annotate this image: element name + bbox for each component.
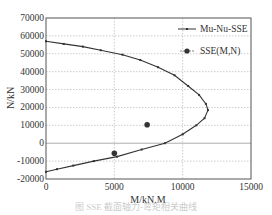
curve-marker: [82, 46, 84, 48]
curve-marker: [122, 54, 124, 56]
curve-marker: [157, 66, 159, 68]
curve-marker: [45, 171, 47, 173]
y-tick-label: 70000: [20, 13, 44, 23]
y-tick-label: 10000: [20, 120, 44, 130]
curve-marker: [116, 156, 118, 158]
curve-marker: [173, 74, 175, 76]
curve-marker: [182, 133, 184, 135]
legend: Mu-Nu-SSE SSE(M,N): [178, 24, 248, 57]
data-series: [45, 40, 209, 173]
y-tick-label: 0: [39, 138, 44, 148]
mu-nu-sse-curve: [46, 41, 208, 172]
y-axis-ticks: -20000-100000100002000030000400005000060…: [17, 13, 44, 184]
curve-marker: [100, 49, 102, 51]
y-axis-label: N/kN: [5, 87, 16, 109]
x-tick-label: 10000: [171, 182, 195, 192]
curve-marker: [204, 117, 206, 119]
y-tick-label: 20000: [20, 102, 44, 112]
curve-marker: [207, 109, 209, 111]
y-tick-label: -10000: [17, 156, 44, 166]
y-tick-label: 40000: [20, 67, 44, 77]
curve-marker: [187, 85, 189, 87]
curve-marker: [45, 40, 47, 42]
curve-marker: [139, 59, 141, 61]
y-tick-label: 50000: [20, 49, 44, 59]
x-axis-ticks: 050001000015000: [44, 182, 264, 192]
interaction-curve-chart: -20000-100000100002000030000400005000060…: [0, 0, 272, 215]
legend-dot-icon: [184, 48, 189, 53]
curve-marker: [205, 103, 207, 105]
y-tick-label: -20000: [17, 174, 44, 184]
curve-marker: [72, 165, 74, 167]
curve-marker: [164, 142, 166, 144]
x-tick-label: 0: [44, 182, 49, 192]
curve-marker: [56, 168, 58, 170]
curve-marker: [63, 43, 65, 45]
x-tick-label: 5000: [105, 182, 124, 192]
y-tick-label: 60000: [20, 31, 44, 41]
sse-point: [144, 122, 150, 128]
curve-marker: [195, 124, 197, 126]
legend-label-mu-nu-sse: Mu-Nu-SSE: [200, 24, 248, 34]
grid-lines: [46, 18, 251, 179]
legend-label-sse-mn: SSE(M,N): [200, 46, 240, 57]
sse-point: [112, 150, 118, 156]
figure-caption: 图 SSE 截面轴力-弯矩相关曲线: [0, 200, 272, 213]
curve-marker: [93, 160, 95, 162]
plot-frame: [46, 18, 251, 179]
curve-marker: [198, 94, 200, 96]
x-tick-label: 15000: [239, 182, 263, 192]
y-tick-label: 30000: [20, 85, 44, 95]
curve-marker: [141, 148, 143, 150]
legend-line-marker-icon: [186, 28, 188, 30]
